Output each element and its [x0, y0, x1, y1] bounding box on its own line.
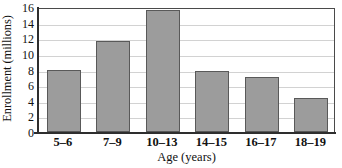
x-axis-tick-label: 16–17 [245, 135, 276, 150]
bar [146, 10, 180, 132]
bar [96, 41, 130, 132]
y-axis-title: Enrollment (millions) [0, 0, 14, 137]
y-axis-line [37, 7, 39, 134]
x-axis-tick-label: 14–15 [196, 135, 227, 150]
bar-chart-figure: Enrollment (millions) 0246810121416 5–67… [0, 0, 342, 168]
x-axis-tick-labels: 5–67–910–1314–1516–1718–19 [38, 135, 335, 151]
y-axis-tick-label: 2 [28, 111, 34, 123]
y-axis-tick-label: 4 [28, 96, 34, 108]
y-axis-tick-labels: 0246810121416 [14, 8, 35, 133]
y-axis-tick-label: 8 [28, 65, 34, 77]
x-axis-tick-label: 7–9 [103, 135, 122, 150]
bar [294, 98, 328, 132]
bar [195, 71, 229, 132]
bar [47, 70, 81, 132]
y-axis-tick-label: 6 [28, 80, 34, 92]
x-axis-title: Age (years) [38, 150, 335, 165]
y-axis-tick-label: 14 [22, 18, 34, 30]
bar-series [39, 9, 334, 132]
x-axis-tick-label: 5–6 [53, 135, 72, 150]
y-axis-tick-label: 16 [22, 2, 34, 14]
x-axis-tick-label: 10–13 [146, 135, 177, 150]
y-axis-title-text: Enrollment (millions) [0, 15, 15, 122]
x-axis-line [34, 132, 336, 134]
x-axis-tick-label: 18–19 [295, 135, 326, 150]
y-axis-tick-label: 12 [22, 33, 34, 45]
bar [245, 77, 279, 132]
y-axis-tick-label: 10 [22, 49, 34, 61]
plot-area [38, 8, 335, 133]
